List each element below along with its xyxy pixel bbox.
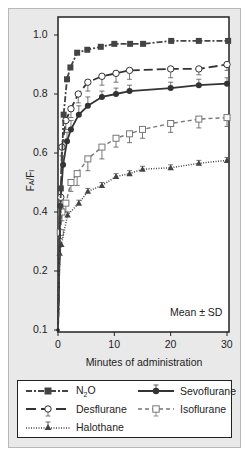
plot-frame — [58, 17, 229, 332]
y-tick-label: 0.1 — [33, 323, 48, 335]
y-tick-label: 1.0 — [33, 28, 48, 40]
y-axis-title: FA/FI — [25, 170, 36, 192]
x-axis-title: Minutes of administration — [58, 356, 230, 368]
isoflurane-line-swatch-icon — [136, 401, 176, 417]
legend-label-n2o: N2O — [76, 384, 96, 398]
mean-sd-annotation: Mean ± SD — [170, 306, 222, 318]
x-tick-label: 10 — [108, 338, 120, 350]
n2o-line-swatch-icon — [24, 383, 72, 399]
legend-label-isoflurane: Isoflurane — [180, 403, 226, 415]
legend-label-halothane: Halothane — [76, 421, 124, 433]
sevoflurane-line-swatch-icon — [136, 383, 176, 399]
legend-item-desflurane: Desflurane — [24, 401, 127, 417]
legend-item-isoflurane: Isoflurane — [136, 401, 226, 417]
desflurane-line-swatch-icon — [24, 401, 72, 417]
legend-item-n2o: N2O — [24, 383, 96, 399]
x-tick-label: 20 — [165, 338, 177, 350]
legend-label-sevoflurane: Sevoflurane — [180, 385, 236, 397]
y-tick-label: 0.4 — [33, 205, 48, 217]
y-tick-label: 0.2 — [33, 264, 48, 276]
y-tick-label: 0.8 — [33, 87, 48, 99]
chart-legend: N2O Sevoflurane Desflurane Isoflurane — [17, 380, 232, 438]
legend-label-desflurane: Desflurane — [76, 403, 127, 415]
legend-item-sevoflurane: Sevoflurane — [136, 383, 236, 399]
legend-item-halothane: Halothane — [24, 419, 124, 435]
halothane-line-swatch-icon — [24, 419, 72, 435]
x-tick-label: 0 — [55, 338, 61, 350]
x-tick-label: 30 — [221, 338, 233, 350]
y-tick-label: 0.6 — [33, 146, 48, 158]
